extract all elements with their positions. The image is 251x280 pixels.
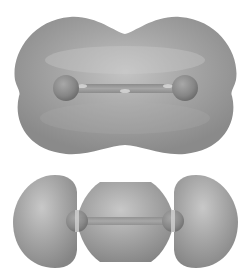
top-atom-right xyxy=(172,75,198,101)
bottom-atom-right xyxy=(162,210,184,232)
bottom-atom-left xyxy=(66,210,88,232)
top-atom-left xyxy=(53,75,79,101)
bottom-bond xyxy=(77,217,173,225)
top-bond xyxy=(66,84,185,93)
molecular-orbital-figure xyxy=(0,0,251,280)
